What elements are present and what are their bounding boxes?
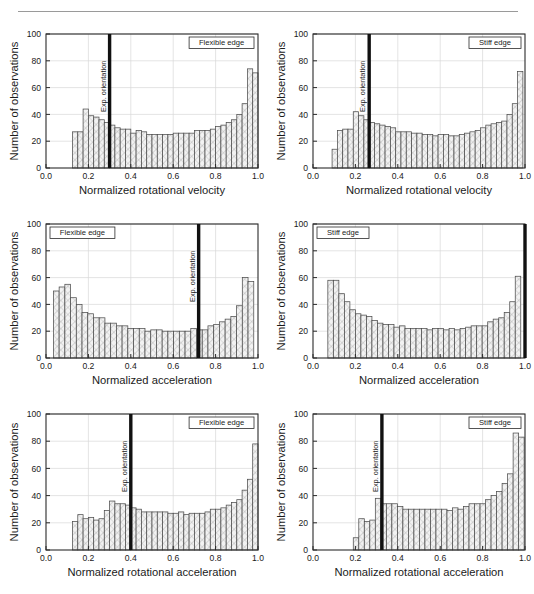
histogram-bar [136,509,141,550]
histogram-bar [425,509,431,550]
x-tick-label: 0.6 [167,171,179,181]
histogram-bar [438,329,444,358]
histogram-bar [173,513,178,550]
exp-orientation-label: Exp. orientation [99,61,108,112]
histogram-bar [162,331,168,358]
histogram-bar [82,312,88,358]
histogram-bar [519,437,525,550]
histogram-bar [184,133,189,168]
x-tick-label: 1.0 [252,361,264,371]
x-tick-label: 0.2 [82,553,94,563]
y-tick-label: 80 [298,56,308,66]
histogram-bar [482,326,488,358]
histogram-bar [475,130,480,168]
histogram-bar [401,132,406,168]
histogram-bar [359,116,364,168]
histogram-bar [377,323,383,358]
y-tick-label: 100 [27,409,42,419]
histogram-bar [126,129,131,168]
y-tick-label: 20 [31,326,41,336]
histogram-bar [436,509,442,550]
y-tick-label: 100 [27,219,42,229]
histogram-bar [416,329,422,358]
histogram-bar [460,329,466,358]
histogram-bar [502,121,507,168]
histogram-bar [510,302,516,358]
histogram-bar [504,312,510,358]
histogram-bar [344,302,350,358]
histogram-bar [147,512,152,550]
histogram-bar [455,330,461,358]
histogram-bar [128,329,134,358]
histogram-bar [433,329,439,358]
histogram-bar [370,520,376,550]
histogram-bar [343,129,348,168]
y-tick-label: 20 [298,518,308,528]
panel-badge-label: Stiff edge [327,228,359,237]
histogram-bar [111,323,117,358]
histogram-bar [392,504,398,550]
histogram-bar [93,318,99,358]
histogram-bar [390,128,395,168]
x-tick-label: 0.8 [210,553,222,563]
histogram-bar [179,133,184,168]
x-tick-label: 1.0 [252,553,264,563]
histogram-bar [502,483,508,550]
histogram-bar [406,132,411,168]
histogram-bar [383,325,389,359]
histogram-bar [374,124,379,168]
y-tick-label: 40 [298,110,308,120]
panel-mid-left: 0204060801000.00.20.40.60.81.0Normalized… [0,212,267,402]
histogram-bar [59,287,65,358]
histogram-bar [122,326,128,358]
histogram-bar [480,128,485,168]
histogram-bar [156,330,162,358]
exp-orientation-label: Exp. orientation [371,441,380,492]
histogram-bar [78,132,83,168]
x-tick-label: 0.8 [210,361,222,371]
x-tick-label: 1.0 [519,553,531,563]
x-tick-label: 0.4 [392,361,404,371]
histogram-bar [247,479,252,550]
panel-bot-left: 0204060801000.00.20.40.60.81.0Normalized… [0,402,267,594]
histogram-bar [210,509,215,550]
y-tick-label: 100 [294,409,309,419]
histogram-bar [480,504,486,550]
histogram-bar [491,496,497,550]
histogram-bar [242,278,248,358]
x-tick-label: 0.2 [349,171,361,181]
x-tick-label: 0.8 [477,361,489,371]
histogram-bar [449,329,455,358]
histogram-bar [152,512,157,550]
histogram-bar [427,330,433,358]
histogram-bar [189,133,194,168]
exp-orientation-label: Exp. orientation [358,61,367,112]
y-tick-label: 20 [298,326,308,336]
x-tick-label: 0.6 [167,553,179,563]
histogram-bar [430,509,436,550]
histogram-bar [253,444,258,550]
histogram-bar [405,329,411,358]
y-tick-label: 40 [31,491,41,501]
histogram-bar [248,282,254,358]
histogram-bar [454,136,459,168]
histogram-bar [399,326,405,358]
y-axis-label: Number of observations [8,41,20,160]
histogram-bar [449,136,454,168]
panel-badge-label: Flexible edge [199,38,244,47]
histogram-bar [419,509,425,550]
histogram-bar [508,474,514,550]
x-tick-label: 0.6 [434,553,446,563]
histogram-bar [191,329,197,358]
histogram-bar [372,320,378,358]
histogram-bar [219,322,225,358]
histogram-bar [151,330,157,358]
histogram-bar [152,135,157,169]
histogram-bar [110,501,115,550]
histogram-bar [147,135,152,169]
histogram-bar [173,133,178,168]
histogram-bar [94,117,99,168]
x-axis-label: Normalized rotational velocity [79,184,226,196]
histogram-bar [141,512,146,550]
histogram-bar [427,135,432,169]
